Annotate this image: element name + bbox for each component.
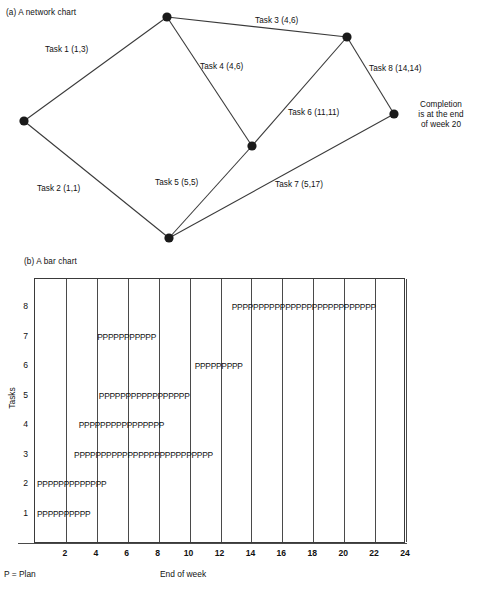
bar-task-7: PPPPPPPPPPP [97, 331, 154, 344]
gridline-week-16 [282, 279, 283, 542]
y-tick-7: 7 [12, 331, 28, 341]
node-top-right [342, 32, 351, 41]
x-tick-10: 10 [179, 548, 199, 558]
x-tick-16: 16 [271, 548, 291, 558]
network-edge-task-1 [24, 17, 167, 121]
bar-chart-panel: (b) A bar chart PPPPPPPPPPPPPPPPPPPPPPPP… [0, 255, 479, 593]
bar-task-2: PPPPPPPPPPPPP [37, 478, 74, 491]
bar-task-4: PPPPPPPPPPPPPPPP [79, 419, 158, 432]
y-tick-1: 1 [12, 508, 28, 518]
y-tick-2: 2 [12, 478, 28, 488]
x-tick-6: 6 [117, 548, 137, 558]
panel-b-caption: (b) A bar chart [24, 257, 77, 266]
gridline-week-14 [251, 279, 252, 542]
x-tick-22: 22 [364, 548, 384, 558]
gridline-week-10 [190, 279, 191, 542]
node-middle [247, 141, 256, 150]
plot-frame: PPPPPPPPPPPPPPPPPPPPPPPPPPPPPPPPPPPPPPPP… [34, 278, 405, 543]
x-tick-4: 4 [86, 548, 106, 558]
x-tick-24: 24 [395, 548, 415, 558]
x-tick-18: 18 [302, 548, 322, 558]
gridline-week-20 [344, 279, 345, 542]
network-edge-label-task-1: Task 1 (1,3) [45, 45, 88, 54]
x-axis-line [18, 543, 407, 544]
y-tick-4: 4 [12, 419, 28, 429]
network-edge-label-task-5: Task 5 (5,5) [155, 178, 198, 187]
node-bottom [164, 233, 173, 242]
y-axis-label: Tasks [7, 378, 17, 418]
completion-note-line-2: is at the end [408, 110, 474, 120]
x-tick-14: 14 [240, 548, 260, 558]
network-edge-label-task-6: Task 6 (11,11) [288, 108, 339, 117]
network-edge-label-task-4: Task 4 (4,6) [200, 62, 243, 71]
network-edge-task-5 [169, 146, 252, 238]
network-edge-label-task-8: Task 8 (14,14) [369, 64, 422, 73]
network-edge-task-4 [167, 17, 252, 146]
x-tick-20: 20 [333, 548, 353, 558]
y-tick-6: 6 [12, 360, 28, 370]
gridline-week-4 [97, 279, 98, 542]
x-axis-label: End of week [160, 569, 206, 579]
network-edge-label-task-2: Task 2 (1,1) [37, 184, 80, 193]
figure-container: (a) A network chart Task 1 (1,3)Task 2 (… [0, 0, 479, 593]
bar-task-6: PPPPPPPPP [195, 360, 241, 373]
node-completion [389, 109, 398, 118]
bar-task-5: PPPPPPPPPPPPPPPPP [99, 390, 184, 403]
gridline-week-2 [66, 279, 67, 542]
network-edge-task-8 [347, 37, 394, 114]
x-tick-8: 8 [148, 548, 168, 558]
bar-task-1: PPPPPPPPPP [37, 508, 62, 521]
gridline-week-8 [159, 279, 160, 542]
gridline-week-24 [406, 279, 407, 542]
completion-note-line-1: Completion [408, 100, 474, 110]
network-edge-task-2 [24, 121, 169, 238]
bar-task-3: PPPPPPPPPPPPPPPPPPPPPPPPPP [74, 449, 201, 462]
y-tick-8: 8 [12, 301, 28, 311]
y-tick-3: 3 [12, 449, 28, 459]
x-tick-2: 2 [55, 548, 75, 558]
node-top [162, 12, 171, 21]
gridline-week-18 [313, 279, 314, 542]
legend-note: P = Plan [4, 569, 36, 579]
gridline-week-12 [221, 279, 222, 542]
gridline-week-6 [128, 279, 129, 542]
completion-note-line-3: of week 20 [408, 120, 474, 130]
network-edge-task-7 [169, 114, 394, 238]
gridline-week-22 [375, 279, 376, 542]
completion-note: Completionis at the endof week 20 [408, 100, 474, 130]
network-edge-label-task-7: Task 7 (5,17) [275, 180, 323, 189]
bar-task-8: PPPPPPPPPPPPPPPPPPPPPPPPPPP [232, 301, 362, 314]
node-start [19, 116, 28, 125]
network-edge-task-6 [252, 37, 347, 146]
x-tick-12: 12 [210, 548, 230, 558]
network-edge-label-task-3: Task 3 (4,6) [255, 16, 298, 25]
